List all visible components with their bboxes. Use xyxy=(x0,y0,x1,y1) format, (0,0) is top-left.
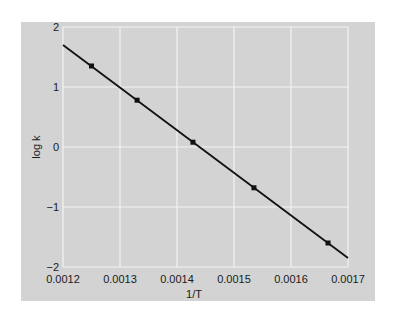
y-tick-label: 2 xyxy=(53,21,59,33)
x-tick-label: 0.0014 xyxy=(160,273,194,285)
x-axis-ticks: 0.00120.00130.00140.00150.00160.0017 xyxy=(46,273,365,285)
x-tick-label: 0.0015 xyxy=(217,273,251,285)
data-point-marker xyxy=(135,98,140,103)
data-point-marker xyxy=(326,241,331,246)
y-tick-label: −2 xyxy=(46,261,59,273)
y-tick-label: 1 xyxy=(53,81,59,93)
x-tick-label: 0.0016 xyxy=(274,273,308,285)
y-tick-label: −1 xyxy=(46,201,59,213)
data-point-marker xyxy=(89,64,94,69)
y-axis-label: log k xyxy=(30,135,42,159)
fit-line xyxy=(63,45,348,258)
y-axis-ticks: 210−1−2 xyxy=(46,21,59,273)
y-tick-label: 0 xyxy=(53,141,59,153)
data-point-marker xyxy=(190,140,195,145)
chart-svg: 0.00120.00130.00140.00150.00160.0017 210… xyxy=(0,0,394,322)
data-series xyxy=(63,45,348,258)
data-point-marker xyxy=(251,185,256,190)
x-tick-label: 0.0012 xyxy=(46,273,80,285)
x-axis-label: 1/T xyxy=(186,288,202,300)
x-tick-label: 0.0013 xyxy=(103,273,137,285)
gridlines xyxy=(63,27,348,267)
x-tick-label: 0.0017 xyxy=(331,273,365,285)
